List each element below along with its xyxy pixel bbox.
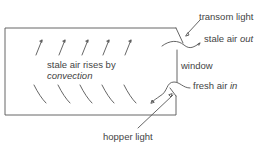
stale-air-out-label: stale air out: [204, 33, 253, 44]
hopper-light-label: hopper light: [103, 131, 153, 142]
fresh-air-in-arrow: [152, 82, 190, 102]
stale-air-out-emph: out: [240, 33, 253, 44]
fresh-air-in-text: fresh air: [193, 80, 230, 91]
stale-air-out-arrow: [162, 41, 200, 47]
hopper-leader: [138, 95, 173, 128]
stale-air-out-text: stale air: [204, 33, 240, 44]
window-label: window: [181, 60, 213, 71]
fresh-air-in-emph: in: [230, 80, 237, 91]
fresh-air-in-label: fresh air in: [193, 80, 237, 91]
convection-label-line2: convection: [47, 70, 92, 81]
ventilation-diagram: [0, 0, 260, 148]
convection-label-line1: stale air rises by: [47, 59, 116, 70]
transom-light: [176, 28, 183, 43]
lower-convection-curves: [34, 85, 136, 103]
upper-convection-arrows: [36, 40, 131, 55]
transom-light-label: transom light: [199, 11, 253, 22]
